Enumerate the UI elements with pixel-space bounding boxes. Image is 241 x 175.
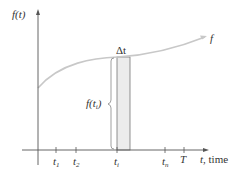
delta-t-label: Δt (116, 44, 126, 56)
riemann-diagram: f(t) f Δt f(ti) t1 t2 ti tn T t, time (0, 0, 241, 175)
y-axis-arrow-icon (36, 9, 40, 15)
tick-label-T: T (180, 153, 187, 165)
tick-label-t2: t2 (73, 155, 80, 169)
x-axis-arrow-icon (203, 148, 209, 152)
y-axis-label: f(t) (12, 8, 26, 21)
x-axis-label: t, time (200, 153, 228, 165)
height-bracket (108, 58, 114, 149)
tick-label-tn: tn (162, 155, 169, 169)
curve-label: f (210, 32, 215, 44)
delta-t-strip (117, 57, 130, 150)
tick-label-t1: t1 (53, 155, 60, 169)
f-ti-label: f(ti) (86, 97, 102, 111)
tick-label-ti: ti (114, 155, 119, 169)
